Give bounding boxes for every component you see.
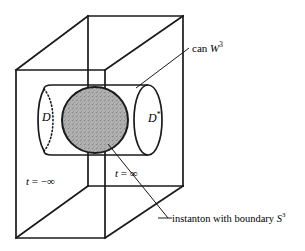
label-instanton-boundary: instanton with boundary S3 [172, 212, 285, 224]
label-can-exponent: 3 [219, 41, 223, 49]
label-t-plus-infinity: t = ∞ [115, 168, 138, 179]
label-instanton-exponent: 3 [282, 211, 285, 218]
label-disc-d: D [42, 111, 51, 123]
label-disc-d-symbol: D [42, 110, 51, 124]
label-can-symbol: W [210, 42, 219, 54]
label-instanton-text: instanton with boundary [172, 213, 274, 224]
box-bottom-left-receding-edge [16, 186, 88, 238]
label-t-minus-infinity: t = −∞ [26, 176, 55, 187]
label-t-plus-value: ∞ [130, 167, 138, 179]
label-can-w3: can W3 [192, 42, 223, 54]
instanton-figure: can W3 instanton with boundary S3 t = −∞… [0, 0, 305, 251]
label-can-text: can [192, 42, 207, 54]
label-t-minus-value: −∞ [41, 175, 55, 187]
instanton-disc [62, 87, 128, 153]
label-disc-d-star: D* [148, 111, 161, 124]
label-disc-d-star-symbol: D [148, 111, 157, 125]
leader-line-can [136, 48, 189, 88]
label-disc-d-star-exponent: * [157, 110, 161, 119]
box-top-left-receding-edge [16, 16, 88, 70]
